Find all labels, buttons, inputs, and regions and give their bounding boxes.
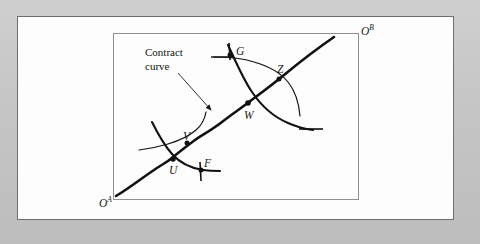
point-label-f: F xyxy=(204,158,211,170)
point-marker-u xyxy=(170,156,176,162)
origin-b-superscript: B xyxy=(369,23,374,32)
point-marker-f xyxy=(199,168,204,173)
point-label-w: W xyxy=(244,110,254,122)
diagram-canvas xyxy=(0,0,480,244)
origin-label-a: OA xyxy=(99,198,112,210)
point-marker-g xyxy=(228,53,233,58)
origin-label-b: OB xyxy=(361,26,374,38)
contract-curve-annotation-label: Contract curve xyxy=(145,46,183,73)
indifference-curve-b-lower xyxy=(139,112,206,150)
point-label-g: G xyxy=(236,46,244,58)
point-marker-w xyxy=(245,100,251,106)
annotation-arrow xyxy=(178,73,211,110)
point-label-z: Z xyxy=(277,64,283,76)
point-marker-z xyxy=(277,77,282,82)
point-label-u: U xyxy=(169,165,177,177)
figure-root: Contract curve G Z W V U F OA OB xyxy=(0,0,480,244)
origin-a-superscript: A xyxy=(107,195,112,204)
point-label-v: V xyxy=(183,131,190,143)
indifference-curve-a-upper xyxy=(228,45,313,130)
indifference-curve-b-upper xyxy=(214,57,300,116)
